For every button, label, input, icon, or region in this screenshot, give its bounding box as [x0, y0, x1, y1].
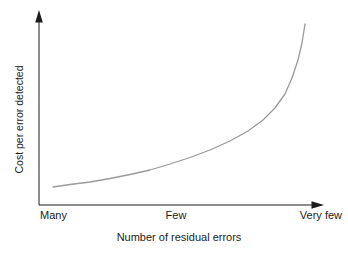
cost-curve	[53, 24, 305, 187]
x-tick-label-few: Few	[146, 209, 206, 222]
x-axis-arrowhead-icon	[312, 201, 325, 209]
y-axis-title: Cost per error detected	[13, 20, 26, 220]
x-axis-title: Number of residual errors	[104, 231, 254, 244]
cost-vs-residual-errors-chart: Cost per error detected Many Few Very fe…	[0, 0, 348, 254]
x-tick-label-very-few: Very few	[300, 209, 342, 222]
x-tick-label-many: Many	[40, 209, 67, 222]
y-axis-arrowhead-icon	[35, 10, 43, 23]
